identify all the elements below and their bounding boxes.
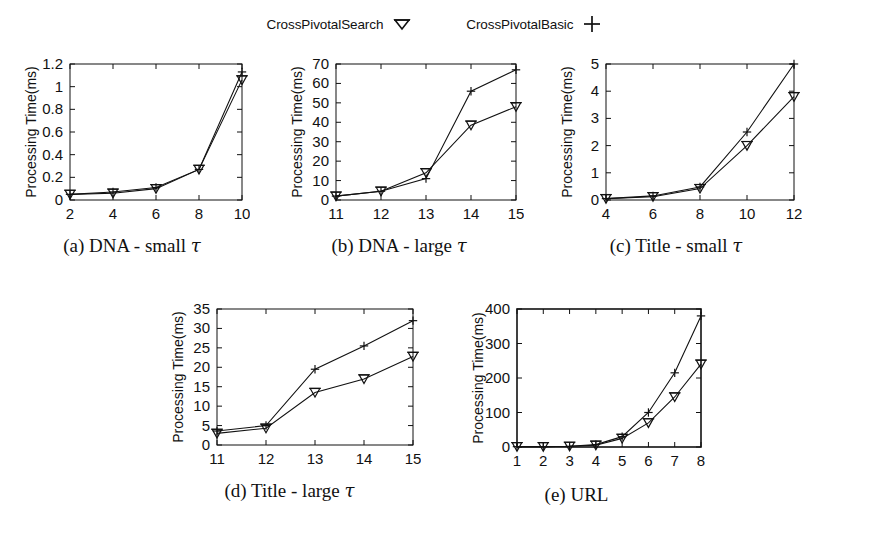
legend-label-crosspivotalbasic: CrossPivotalBasic — [466, 17, 573, 32]
x-tick-label: 13 — [306, 450, 323, 467]
y-tick-label: 70 — [312, 55, 329, 72]
y-tick-label: 300 — [484, 335, 509, 352]
x-tick-label: 11 — [328, 205, 344, 222]
y-tick-label: 35 — [193, 300, 210, 317]
y-axis-label: Processing Time(ms) — [170, 311, 186, 442]
figure-legend: CrossPivotalSearch CrossPivotalBasic — [0, 14, 869, 34]
plot-e: 010020030040012345678Processing Time(ms) — [443, 297, 711, 483]
x-tick-label: 14 — [463, 205, 480, 222]
y-tick-label: 50 — [312, 94, 329, 111]
x-tick-label: 8 — [696, 205, 704, 222]
y-axis-label: Processing Time(ms) — [470, 312, 486, 443]
subplot-d-svg: 051015202530351112131415Processing Time(… — [159, 297, 421, 475]
y-tick-label: 40 — [312, 113, 329, 130]
y-tick-label: 100 — [484, 404, 509, 421]
x-tick-label: 12 — [786, 205, 802, 222]
plot-a: 00.20.40.60.811.2246810Processing Time(m… — [14, 52, 250, 234]
plus-marker-icon — [582, 14, 602, 34]
tau-symbol: τ — [457, 235, 467, 256]
y-tick-label: 2 — [591, 137, 599, 154]
x-tick-label: 4 — [591, 452, 599, 469]
series-crosspivotalbasic — [602, 60, 798, 203]
y-tick-label: 5 — [201, 417, 209, 434]
tau-symbol: τ — [345, 480, 355, 501]
series-crosspivotalsearch — [511, 360, 707, 451]
x-tick-label: 2 — [66, 205, 74, 222]
subplot-b-svg: 0102030405060701112131415Processing Time… — [274, 52, 524, 230]
triangle-down-marker-icon — [392, 14, 412, 34]
y-tick-label: 30 — [312, 133, 329, 150]
series-crosspivotalbasic — [512, 312, 704, 451]
y-tick-label: 3 — [591, 109, 599, 126]
x-tick-label: 4 — [602, 205, 610, 222]
subplot-c-svg: 0123454681012Processing Time(ms) — [550, 52, 802, 230]
tau-symbol: τ — [732, 235, 742, 256]
plot-b: 0102030405060701112131415Processing Time… — [274, 52, 524, 234]
caption-c: (c) Title - small τ — [610, 235, 742, 257]
legend-label-crosspivotalsearch: CrossPivotalSearch — [267, 17, 384, 32]
y-tick-label: 20 — [193, 358, 210, 375]
subfigure-e: 010020030040012345678Processing Time(ms)… — [443, 297, 711, 506]
y-tick-label: 0 — [501, 438, 509, 455]
plot-d: 051015202530351112131415Processing Time(… — [159, 297, 421, 479]
legend-entry-crosspivotalbasic: CrossPivotalBasic — [466, 14, 602, 34]
x-tick-label: 14 — [355, 450, 372, 467]
x-tick-label: 12 — [257, 450, 274, 467]
x-tick-label: 8 — [195, 205, 203, 222]
y-tick-label: 0.2 — [42, 168, 63, 185]
x-tick-label: 6 — [649, 205, 657, 222]
subfigure-c: 0123454681012Processing Time(ms) (c) Tit… — [550, 52, 802, 257]
y-tick-label: 10 — [312, 172, 329, 189]
caption-b: (b) DNA - large τ — [331, 235, 466, 257]
series-crosspivotalbasic — [212, 316, 416, 435]
y-tick-label: 0.6 — [42, 123, 63, 140]
y-tick-label: 60 — [312, 74, 329, 91]
y-tick-label: 10 — [193, 397, 210, 414]
caption-a: (a) DNA - small τ — [63, 235, 201, 257]
y-tick-label: 200 — [484, 369, 509, 386]
y-tick-label: 15 — [193, 378, 210, 395]
series-crosspivotalsearch — [330, 103, 522, 201]
x-tick-label: 11 — [209, 450, 225, 467]
subfigure-d: 051015202530351112131415Processing Time(… — [159, 297, 421, 506]
series-crosspivotalbasic — [332, 66, 520, 201]
tau-symbol: τ — [191, 235, 201, 256]
y-tick-label: 1.2 — [42, 55, 63, 72]
x-tick-label: 6 — [152, 205, 160, 222]
caption-d: (d) Title - large τ — [225, 480, 355, 502]
x-tick-label: 3 — [565, 452, 573, 469]
x-tick-label: 15 — [404, 450, 420, 467]
x-tick-label: 13 — [418, 205, 435, 222]
y-tick-label: 0.8 — [42, 100, 63, 117]
x-tick-label: 1 — [512, 452, 520, 469]
x-tick-label: 8 — [696, 452, 704, 469]
y-tick-label: 25 — [193, 339, 210, 356]
y-tick-label: 20 — [312, 152, 329, 169]
y-tick-label: 0.4 — [42, 146, 63, 163]
x-tick-label: 2 — [539, 452, 547, 469]
y-axis-label: Processing Time(ms) — [559, 66, 575, 197]
subplot-row-bottom: 051015202530351112131415Processing Time(… — [0, 297, 869, 506]
subfigure-a: 00.20.40.60.811.2246810Processing Time(m… — [14, 52, 250, 257]
x-tick-label: 15 — [508, 205, 524, 222]
x-tick-label: 7 — [670, 452, 678, 469]
y-tick-label: 1 — [55, 78, 63, 95]
subplot-row-top: 00.20.40.60.811.2246810Processing Time(m… — [0, 52, 869, 257]
x-tick-label: 12 — [373, 205, 390, 222]
x-tick-label: 5 — [617, 452, 625, 469]
subplot-a-svg: 00.20.40.60.811.2246810Processing Time(m… — [14, 52, 250, 230]
y-tick-label: 1 — [591, 164, 599, 181]
y-tick-label: 5 — [591, 55, 599, 72]
x-tick-label: 10 — [234, 205, 250, 222]
plot-c: 0123454681012Processing Time(ms) — [550, 52, 802, 234]
subfigure-b: 0102030405060701112131415Processing Time… — [274, 52, 524, 257]
x-tick-label: 10 — [739, 205, 756, 222]
y-tick-label: 400 — [484, 300, 509, 317]
legend-entry-crosspivotalsearch: CrossPivotalSearch — [267, 14, 413, 34]
x-tick-label: 6 — [644, 452, 652, 469]
y-axis-label: Processing Time(ms) — [289, 66, 305, 197]
y-tick-label: 0 — [55, 191, 63, 208]
y-axis-label: Processing Time(ms) — [23, 66, 39, 197]
y-tick-label: 30 — [193, 319, 210, 336]
x-tick-label: 4 — [109, 205, 117, 222]
